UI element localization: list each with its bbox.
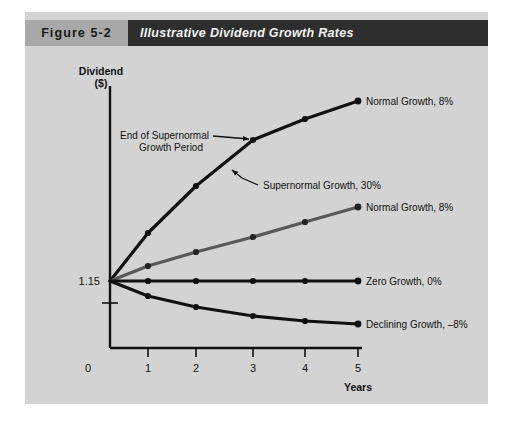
chart-canvas: Dividend ($) 1.15 0 1 2 3 4 5 Years: [0, 0, 513, 429]
x-tick-label-5: 5: [355, 362, 361, 374]
x-tick-label-4: 4: [302, 362, 308, 374]
axis-group: [102, 86, 362, 357]
x-axis-title: Years: [344, 381, 372, 393]
data-point: [302, 318, 308, 324]
series-declining-growth: [110, 281, 361, 327]
data-point: [145, 230, 151, 236]
data-point: [250, 234, 256, 240]
annotation-end-supernormal-line1: End of Supernormal: [120, 130, 209, 141]
y-axis-base-value-label: 1.15: [79, 275, 100, 287]
series-declining-line: [110, 281, 358, 324]
data-point: [355, 278, 362, 285]
data-point: [145, 278, 151, 284]
data-point: [193, 249, 199, 255]
y-axis-title-line1: Dividend: [79, 65, 123, 77]
annotation-supernormal-growth: Supernormal Growth, 30%: [232, 170, 381, 191]
data-point: [145, 263, 151, 269]
data-point: [355, 204, 362, 211]
data-point: [193, 183, 199, 189]
series-zero-growth: [110, 278, 361, 285]
y-axis-title-line2: ($): [95, 77, 108, 89]
data-point: [302, 116, 308, 122]
series-label-normal-growth: Normal Growth, 8%: [366, 202, 453, 213]
annotation-end-supernormal-line2: Growth Period: [139, 142, 203, 153]
data-point: [193, 304, 199, 310]
x-tick-label-1: 1: [145, 362, 151, 374]
annotation-arrow: [213, 136, 249, 139]
x-tick-label-0: 0: [85, 362, 91, 374]
data-point: [250, 313, 256, 319]
series-normal-line: [110, 207, 358, 281]
data-point: [250, 278, 256, 284]
data-point: [355, 98, 362, 105]
series-label-supernormal-end: Normal Growth, 8%: [366, 96, 453, 107]
annotation-leader-line: [232, 170, 258, 185]
data-point: [250, 137, 256, 143]
data-point: [302, 219, 308, 225]
annotation-supernormal-label: Supernormal Growth, 30%: [263, 180, 381, 191]
series-normal-growth: [110, 204, 361, 281]
data-point: [145, 293, 151, 299]
data-point: [193, 278, 199, 284]
data-point: [355, 321, 362, 328]
annotation-end-of-supernormal: End of Supernormal Growth Period: [120, 130, 249, 153]
series-label-declining-growth: Declining Growth, –8%: [366, 319, 468, 330]
series-label-zero-growth: Zero Growth, 0%: [366, 276, 442, 287]
series-supernormal-line: [110, 101, 358, 281]
data-point: [302, 278, 308, 284]
x-tick-label-2: 2: [193, 362, 199, 374]
x-tick-label-3: 3: [250, 362, 256, 374]
